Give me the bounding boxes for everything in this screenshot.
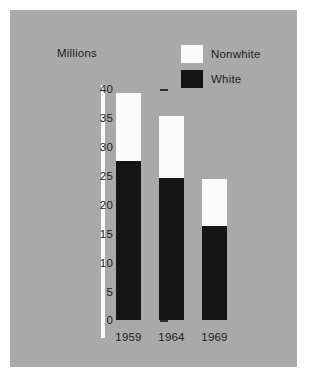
bar-segment-nonwhite (202, 179, 227, 226)
y-tick-40: 40 (55, 84, 113, 95)
legend-swatch-nonwhite-icon (181, 45, 203, 63)
y-tick-label: 15 (79, 229, 113, 240)
y-tick-15: 15 (55, 229, 113, 240)
y-tick-mark (160, 89, 168, 91)
bar-segment-nonwhite (159, 116, 184, 178)
legend-swatch-white-icon (181, 70, 203, 88)
x-axis-label-1959: 1959 (106, 331, 151, 343)
y-tick-label: 20 (79, 200, 113, 211)
bar-segment-white (116, 161, 141, 320)
x-axis-label-1969: 1969 (192, 331, 237, 343)
y-tick-5: 5 (55, 287, 113, 298)
y-tick-label: 0 (79, 315, 113, 326)
y-tick-label: 30 (79, 142, 113, 153)
bar-segment-white (202, 226, 227, 320)
x-axis-label-1964: 1964 (149, 331, 194, 343)
y-tick-label: 10 (79, 258, 113, 269)
y-tick-35: 35 (55, 113, 113, 124)
y-tick-mark (160, 320, 168, 322)
y-tick-10: 10 (55, 258, 113, 269)
y-tick-0: 0 (55, 315, 113, 326)
y-tick-label: 5 (79, 287, 113, 298)
y-tick-30: 30 (55, 142, 113, 153)
y-axis-title: Millions (57, 47, 97, 59)
chart-figure: Millions 40 35 30 25 20 15 10 (0, 0, 312, 382)
y-tick-25: 25 (55, 171, 113, 182)
legend-label: Nonwhite (211, 48, 261, 60)
bar-segment-nonwhite (116, 93, 141, 161)
legend-label: White (211, 73, 241, 85)
chart-plot-panel (10, 10, 297, 367)
y-tick-label: 40 (79, 84, 113, 95)
y-tick-20: 20 (55, 200, 113, 211)
y-tick-label: 25 (79, 171, 113, 182)
y-tick-label: 35 (79, 113, 113, 124)
bar-segment-white (159, 178, 184, 320)
